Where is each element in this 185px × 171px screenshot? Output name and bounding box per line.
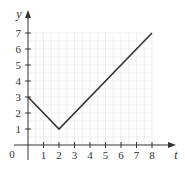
x-tick-label: 7 [134,149,140,161]
x-axis-label: t [174,148,178,162]
x-tick-label: 1 [41,149,47,161]
x-tick-label: 4 [87,149,93,161]
y-tick-label: 1 [16,123,22,135]
x-tick-label: 2 [56,149,62,161]
y-tick-label: 5 [16,59,22,71]
grid [28,33,152,145]
x-tick-label: 6 [118,149,124,161]
y-tick-label: 2 [16,107,22,119]
origin-label: 0 [9,148,15,160]
line-chart: 1234567812345670 yt [0,0,185,171]
y-axis-label: y [15,7,22,21]
y-tick-label: 4 [16,75,22,87]
x-tick-label: 8 [149,149,155,161]
y-tick-label: 3 [16,91,22,103]
axis-labels: yt [15,7,178,162]
x-tick-label: 3 [72,149,78,161]
y-tick-label: 7 [16,27,22,39]
x-tick-label: 5 [103,149,109,161]
y-tick-label: 6 [16,43,22,55]
y-axis-arrow-icon [25,10,31,18]
